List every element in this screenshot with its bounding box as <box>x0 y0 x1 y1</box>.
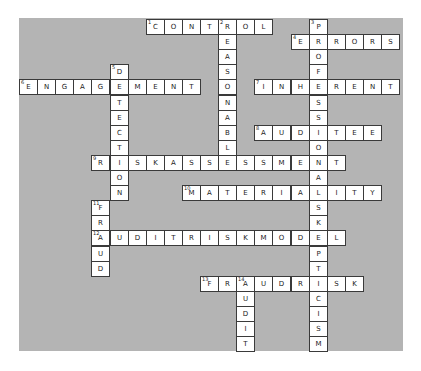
crossword-cell[interactable]: S <box>327 276 346 292</box>
crossword-cell[interactable]: D <box>128 230 147 246</box>
crossword-cell[interactable]: 5D <box>110 64 129 80</box>
crossword-cell[interactable]: D <box>236 306 255 322</box>
crossword-cell[interactable]: T <box>218 185 237 201</box>
crossword-cell[interactable]: R <box>363 34 382 50</box>
crossword-cell[interactable]: G <box>91 79 110 95</box>
crossword-cell[interactable]: K <box>345 276 364 292</box>
crossword-cell[interactable]: S <box>218 64 237 80</box>
crossword-cell[interactable]: O <box>309 49 328 65</box>
crossword-cell[interactable]: C <box>110 125 129 141</box>
crossword-cell[interactable]: 10M <box>182 185 201 201</box>
crossword-cell[interactable]: N <box>272 79 291 95</box>
crossword-cell[interactable]: 8A <box>254 125 273 141</box>
crossword-cell[interactable]: R <box>254 185 273 201</box>
crossword-cell[interactable]: R <box>91 215 110 231</box>
crossword-cell[interactable]: P <box>309 246 328 262</box>
crossword-cell[interactable]: U <box>272 125 291 141</box>
crossword-cell[interactable]: Y <box>363 185 382 201</box>
crossword-cell[interactable]: 13F <box>200 276 219 292</box>
crossword-cell[interactable]: L <box>309 185 328 201</box>
crossword-cell[interactable]: M <box>254 230 273 246</box>
crossword-cell[interactable]: F <box>309 64 328 80</box>
crossword-cell[interactable]: G <box>55 79 74 95</box>
crossword-cell[interactable]: N <box>182 19 201 35</box>
crossword-cell[interactable]: T <box>110 140 129 156</box>
crossword-cell[interactable]: K <box>146 155 165 171</box>
crossword-cell[interactable]: U <box>91 246 110 262</box>
crossword-cell[interactable]: 1C <box>146 19 165 35</box>
crossword-cell[interactable]: E <box>110 110 129 126</box>
crossword-cell[interactable]: E <box>236 185 255 201</box>
crossword-cell[interactable]: 2R <box>218 19 237 35</box>
crossword-cell[interactable]: E <box>309 79 328 95</box>
crossword-cell[interactable]: R <box>309 34 328 50</box>
crossword-cell[interactable]: S <box>309 110 328 126</box>
crossword-cell[interactable]: A <box>309 170 328 186</box>
crossword-cell[interactable]: I <box>110 155 129 171</box>
crossword-cell[interactable]: 12A <box>91 230 110 246</box>
crossword-cell[interactable]: U <box>254 276 273 292</box>
crossword-cell[interactable]: I <box>236 321 255 337</box>
crossword-cell[interactable]: E <box>363 125 382 141</box>
crossword-cell[interactable]: A <box>218 49 237 65</box>
crossword-cell[interactable]: 7I <box>254 79 273 95</box>
crossword-cell[interactable]: O <box>110 170 129 186</box>
crossword-cell[interactable]: E <box>146 79 165 95</box>
crossword-cell[interactable]: L <box>254 19 273 35</box>
crossword-cell[interactable]: I <box>309 125 328 141</box>
crossword-cell[interactable]: I <box>146 230 165 246</box>
crossword-cell[interactable]: T <box>345 185 364 201</box>
crossword-cell[interactable]: O <box>272 230 291 246</box>
crossword-cell[interactable]: N <box>164 79 183 95</box>
crossword-cell[interactable]: O <box>164 19 183 35</box>
crossword-cell[interactable]: A <box>218 110 237 126</box>
crossword-cell[interactable]: A <box>200 185 219 201</box>
crossword-cell[interactable]: D <box>291 125 310 141</box>
crossword-cell[interactable]: S <box>381 34 400 50</box>
crossword-cell[interactable]: O <box>218 79 237 95</box>
crossword-cell[interactable]: O <box>309 140 328 156</box>
crossword-cell[interactable]: 11F <box>91 200 110 216</box>
crossword-cell[interactable]: T <box>182 79 201 95</box>
crossword-cell[interactable]: E <box>218 155 237 171</box>
crossword-cell[interactable]: A <box>73 79 92 95</box>
crossword-cell[interactable]: U <box>236 291 255 307</box>
crossword-cell[interactable]: S <box>236 155 255 171</box>
crossword-cell[interactable]: B <box>218 125 237 141</box>
crossword-cell[interactable]: 4E <box>291 34 310 50</box>
crossword-cell[interactable]: R <box>182 230 201 246</box>
crossword-cell[interactable]: E <box>218 34 237 50</box>
crossword-cell[interactable]: 3P <box>309 19 328 35</box>
crossword-cell[interactable]: I <box>327 185 346 201</box>
crossword-cell[interactable]: A <box>164 155 183 171</box>
crossword-cell[interactable]: E <box>110 79 129 95</box>
crossword-cell[interactable]: T <box>381 79 400 95</box>
crossword-cell[interactable]: R <box>327 79 346 95</box>
crossword-cell[interactable]: O <box>345 34 364 50</box>
crossword-cell[interactable]: K <box>309 215 328 231</box>
crossword-cell[interactable]: I <box>200 230 219 246</box>
crossword-cell[interactable]: M <box>272 155 291 171</box>
crossword-cell[interactable]: S <box>128 155 147 171</box>
crossword-cell[interactable]: D <box>291 230 310 246</box>
crossword-cell[interactable]: I <box>309 276 328 292</box>
crossword-cell[interactable]: M <box>128 79 147 95</box>
crossword-cell[interactable]: S <box>200 155 219 171</box>
crossword-cell[interactable]: T <box>309 261 328 277</box>
crossword-cell[interactable]: I <box>309 306 328 322</box>
crossword-cell[interactable]: E <box>345 125 364 141</box>
crossword-cell[interactable]: E <box>345 79 364 95</box>
crossword-cell[interactable]: K <box>236 230 255 246</box>
crossword-cell[interactable]: S <box>309 95 328 111</box>
crossword-cell[interactable]: 9R <box>91 155 110 171</box>
crossword-cell[interactable]: O <box>236 19 255 35</box>
crossword-cell[interactable]: S <box>309 200 328 216</box>
crossword-cell[interactable]: S <box>182 155 201 171</box>
crossword-cell[interactable]: N <box>218 95 237 111</box>
crossword-cell[interactable]: T <box>110 95 129 111</box>
crossword-cell[interactable]: N <box>110 185 129 201</box>
crossword-cell[interactable]: S <box>218 230 237 246</box>
crossword-cell[interactable]: H <box>291 79 310 95</box>
crossword-cell[interactable]: T <box>327 155 346 171</box>
crossword-cell[interactable]: D <box>91 261 110 277</box>
